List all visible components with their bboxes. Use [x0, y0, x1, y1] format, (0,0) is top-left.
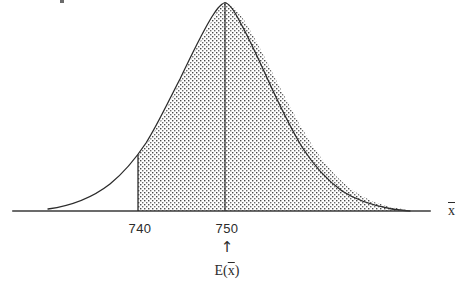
expected-value-close-paren: ) — [235, 263, 240, 278]
axis-name-xbar-text: x — [448, 203, 455, 218]
shaded-area-under-curve — [138, 0, 410, 212]
expected-value-label: E(x) — [215, 264, 240, 278]
up-arrow-icon: ↑ — [221, 240, 234, 255]
normal-distribution-figure: 740 750 ↑ E(x) x — [0, 0, 468, 294]
distribution-plot — [0, 0, 468, 294]
axis-name-xbar: x — [448, 204, 455, 218]
tick-label-750: 750 — [216, 221, 239, 236]
tick-label-740: 740 — [129, 221, 152, 236]
scan-artifact-speck — [60, 0, 64, 3]
shaded-area-group — [138, 0, 410, 212]
expected-value-open-paren: E( — [215, 263, 228, 278]
